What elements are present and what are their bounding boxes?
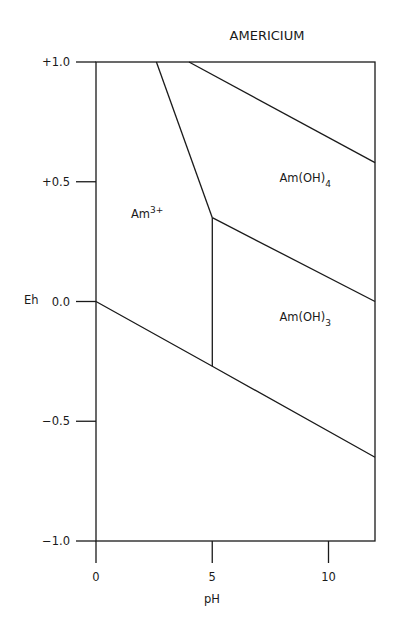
region-label: Am3+: [131, 205, 163, 221]
upper-boundary-line: [189, 62, 375, 163]
y-tick-label: −1.0: [42, 534, 70, 548]
y-axis: +1.0+0.50.0−0.5−1.0: [42, 55, 96, 548]
plot-frame: [96, 62, 375, 541]
y-axis-label: Eh: [24, 293, 39, 307]
Am3+/Am(OH)4-boundary-line: [156, 62, 212, 218]
region-labels: Am3+Am(OH)4Am(OH)3: [131, 171, 331, 328]
region-label: Am(OH)3: [280, 310, 331, 328]
Am(OH)4/Am(OH)3-boundary-line: [212, 218, 375, 302]
y-tick-label: 0.0: [52, 295, 70, 309]
region-label: Am(OH)4: [280, 171, 332, 189]
x-tick-label: 0: [92, 570, 99, 584]
water-reduction-boundary-line: [96, 302, 375, 458]
y-tick-label: +1.0: [42, 55, 70, 69]
y-tick-label: +0.5: [42, 175, 70, 189]
pourbaix-diagram: AMERICIUM +1.0+0.50.0−0.5−1.0 0510 Eh pH…: [0, 0, 395, 635]
chart-title: AMERICIUM: [230, 28, 305, 43]
y-tick-label: −0.5: [42, 414, 70, 428]
x-axis-label: pH: [204, 592, 220, 606]
x-axis: 0510: [92, 541, 335, 584]
boundary-lines: [96, 62, 375, 457]
x-tick-label: 5: [209, 570, 216, 584]
x-tick-label: 10: [321, 570, 336, 584]
